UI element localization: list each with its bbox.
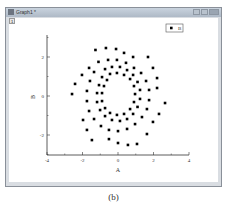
data-point xyxy=(93,71,96,74)
data-point xyxy=(129,78,132,81)
data-point xyxy=(104,68,107,71)
data-point xyxy=(133,101,136,104)
x-tick-label: 4 xyxy=(188,158,191,163)
data-point xyxy=(86,90,89,93)
data-point xyxy=(132,113,135,116)
data-point xyxy=(126,69,129,72)
data-point xyxy=(133,85,136,88)
data-point xyxy=(145,80,148,83)
data-point xyxy=(134,93,137,96)
data-point xyxy=(156,77,159,80)
axes: -4-202420-2AB xyxy=(30,35,191,173)
data-point xyxy=(71,93,74,96)
data-point xyxy=(123,113,126,116)
data-point xyxy=(116,114,119,117)
data-point xyxy=(140,72,143,75)
data-point xyxy=(105,47,108,50)
figure-caption: (b) xyxy=(0,192,227,202)
data-point xyxy=(115,48,118,51)
data-point xyxy=(111,66,114,69)
data-point xyxy=(106,79,109,82)
data-point xyxy=(104,115,107,118)
data-point xyxy=(125,62,128,65)
data-point xyxy=(148,89,151,92)
data-point xyxy=(103,85,106,88)
data-point xyxy=(88,67,91,70)
legend[interactable]: B xyxy=(166,24,183,32)
data-point xyxy=(133,67,136,70)
data-point xyxy=(126,128,129,131)
y-tick-label: -2 xyxy=(40,133,45,138)
data-point xyxy=(104,107,107,110)
data-point xyxy=(126,118,129,121)
scatter-plot: -4-202420-2AB B xyxy=(0,0,227,210)
data-point xyxy=(123,52,126,55)
data-point xyxy=(139,98,142,101)
y-tick-label: 0 xyxy=(42,94,45,99)
data-point xyxy=(82,119,85,122)
data-point xyxy=(148,99,151,102)
x-tick-label: -4 xyxy=(45,158,50,163)
data-point xyxy=(94,49,97,52)
data-point xyxy=(99,109,102,112)
x-tick-label: 2 xyxy=(152,158,155,163)
data-point xyxy=(101,76,104,79)
data-point xyxy=(109,112,112,115)
data-point xyxy=(136,81,139,84)
data-point xyxy=(141,116,144,119)
x-tick-label: -2 xyxy=(80,158,85,163)
data-point xyxy=(93,118,96,121)
data-point xyxy=(107,59,110,62)
data-point xyxy=(147,56,150,59)
data-point xyxy=(108,138,111,141)
data-point xyxy=(100,125,103,128)
data-point xyxy=(127,144,130,147)
y-tick-label: 2 xyxy=(42,55,45,60)
data-point xyxy=(152,67,155,70)
data-point xyxy=(146,108,149,111)
data-point xyxy=(117,142,120,145)
legend-marker-icon xyxy=(170,27,173,30)
data-point xyxy=(91,139,94,142)
data-point xyxy=(152,121,155,124)
data-point xyxy=(123,74,126,77)
data-point xyxy=(109,73,112,76)
data-point xyxy=(119,66,122,69)
data-point xyxy=(89,80,92,83)
data-point xyxy=(129,108,132,111)
data-point xyxy=(96,92,99,95)
data-points xyxy=(71,47,167,147)
data-point xyxy=(86,100,89,103)
data-point xyxy=(117,130,120,133)
data-point xyxy=(97,61,100,64)
data-point xyxy=(136,106,139,109)
data-point xyxy=(86,129,89,132)
data-point xyxy=(101,92,104,95)
data-point xyxy=(88,110,91,113)
x-tick-label: 0 xyxy=(117,158,120,163)
data-point xyxy=(146,133,149,136)
data-point xyxy=(108,129,111,132)
data-point xyxy=(136,143,139,146)
data-point xyxy=(132,56,135,59)
data-point xyxy=(139,89,142,92)
data-point xyxy=(164,102,167,105)
data-point xyxy=(116,72,119,75)
x-axis-label: A xyxy=(116,167,121,173)
data-point xyxy=(101,100,104,103)
data-point xyxy=(96,101,99,104)
data-point xyxy=(119,120,122,123)
data-point xyxy=(156,87,159,90)
data-point xyxy=(134,123,137,126)
data-point xyxy=(158,113,161,116)
data-point xyxy=(116,59,119,62)
data-point xyxy=(81,74,84,77)
data-point xyxy=(111,119,114,122)
data-point xyxy=(98,84,101,87)
data-point xyxy=(74,83,77,86)
y-axis-label: B xyxy=(30,95,36,99)
data-point xyxy=(132,74,135,77)
